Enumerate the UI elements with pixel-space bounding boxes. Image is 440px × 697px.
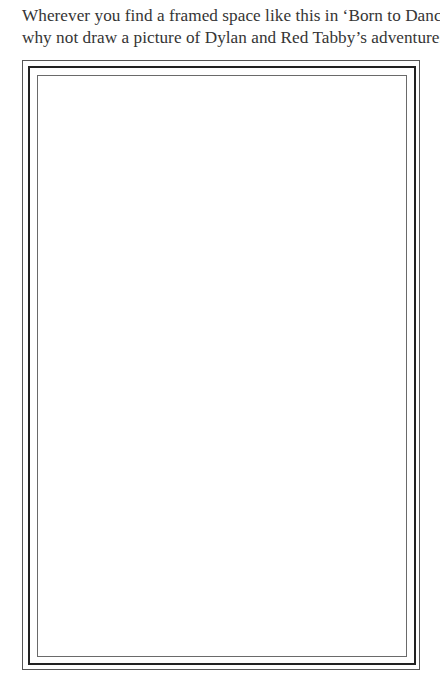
drawing-area	[37, 75, 407, 657]
intro-text: Wherever you find a framed space like th…	[22, 5, 427, 49]
intro-line-1: Wherever you find a framed space like th…	[22, 5, 427, 27]
intro-line-2: why not draw a picture of Dylan and Red …	[22, 27, 427, 49]
